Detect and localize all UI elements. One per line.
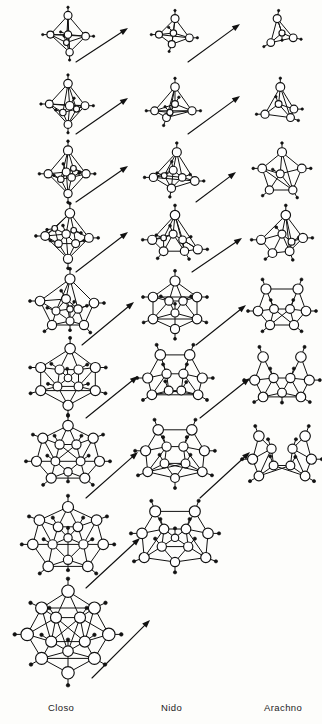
boron-vertex	[254, 431, 265, 442]
terminal-hydrogen	[29, 300, 32, 303]
boron-vertex	[178, 174, 186, 182]
boron-vertex	[60, 109, 66, 115]
boron-vertex	[50, 612, 61, 623]
boron-vertex	[148, 314, 158, 324]
terminal-hydrogen	[86, 363, 89, 366]
boron-vertex	[79, 636, 90, 647]
arrow-nido-to-arachno-row1	[188, 24, 240, 62]
boron-vertex	[90, 362, 100, 372]
terminal-hydrogen	[67, 131, 70, 134]
cluster-arachno-row6	[243, 345, 322, 404]
terminal-hydrogen	[103, 663, 107, 667]
boron-vertex	[306, 454, 316, 464]
boron-vertex	[82, 170, 90, 178]
boron-vertex	[48, 540, 57, 549]
boron-vertex	[189, 506, 200, 517]
boron-vertex	[31, 456, 41, 466]
terminal-hydrogen	[141, 238, 144, 241]
terminal-hydrogen	[101, 433, 104, 436]
terminal-hydrogen	[42, 538, 45, 541]
terminal-hydrogen	[266, 438, 269, 441]
terminal-hydrogen	[296, 196, 299, 199]
terminal-hydrogen	[129, 532, 132, 535]
boron-vertex	[63, 254, 72, 263]
terminal-hydrogen	[297, 119, 300, 122]
cluster-arachno-row4	[250, 204, 314, 261]
terminal-hydrogen	[162, 124, 165, 127]
boron-vertex	[157, 542, 166, 551]
boron-vertex	[160, 459, 169, 468]
boron-vertex	[184, 542, 193, 551]
boron-vertex	[300, 471, 310, 481]
boron-vertex	[172, 148, 181, 157]
terminal-hydrogen	[50, 362, 53, 365]
boron-vertex	[53, 382, 62, 391]
terminal-hydrogen	[175, 142, 178, 145]
cluster-closo-row9	[13, 577, 123, 687]
terminal-hydrogen	[69, 267, 72, 270]
boron-vertex	[170, 210, 180, 220]
boron-vertex	[257, 235, 266, 244]
boron-vertex	[67, 306, 73, 312]
boron-vertex	[162, 369, 171, 378]
terminal-hydrogen	[210, 474, 213, 477]
terminal-hydrogen	[315, 310, 318, 313]
boron-vertex	[58, 176, 64, 182]
terminal-hydrogen	[178, 96, 181, 99]
terminal-hydrogen	[104, 366, 107, 369]
boron-vertex	[52, 226, 58, 232]
terminal-hydrogen	[174, 9, 176, 11]
boron-vertex	[81, 102, 89, 110]
terminal-hydrogen	[255, 113, 258, 116]
arrow-nido-to-arachno-row6	[200, 378, 250, 418]
boron-vertex	[161, 173, 167, 179]
terminal-hydrogen	[68, 202, 71, 205]
boron-vertex	[253, 306, 263, 316]
boron-vertex	[278, 230, 286, 238]
boron-vertex	[170, 557, 179, 566]
terminal-hydrogen	[185, 380, 188, 383]
boron-vertex	[203, 528, 214, 539]
terminal-hydrogen	[174, 337, 177, 340]
boron-vertex	[268, 249, 277, 258]
terminal-hydrogen	[284, 204, 287, 207]
boron-vertex	[180, 247, 188, 255]
terminal-hydrogen	[105, 515, 108, 518]
terminal-hydrogen	[271, 168, 274, 171]
terminal-hydrogen	[119, 633, 123, 637]
column-label-nido: Nido	[161, 702, 182, 713]
terminal-hydrogen	[95, 572, 98, 575]
boron-vertex	[34, 515, 45, 526]
terminal-hydrogen	[247, 310, 250, 313]
boron-vertex	[148, 292, 158, 302]
arrow-head	[234, 238, 242, 245]
cluster-nido-row4	[141, 204, 208, 261]
arrow-nido-to-arachno-row3	[196, 172, 236, 202]
boron-vertex	[51, 457, 60, 466]
terminal-hydrogen	[142, 321, 145, 324]
boron-vertex	[171, 83, 180, 92]
arrow-head	[232, 96, 240, 103]
terminal-hydrogen	[141, 398, 144, 401]
terminal-hydrogen	[307, 424, 310, 427]
terminal-hydrogen	[104, 601, 108, 605]
boron-vertex	[289, 186, 297, 194]
terminal-hydrogen	[261, 330, 264, 333]
terminal-hydrogen	[173, 486, 176, 489]
terminal-hydrogen	[205, 321, 208, 324]
terminal-hydrogen	[258, 345, 261, 348]
terminal-hydrogen	[300, 38, 302, 40]
cluster-arachno-row3	[252, 142, 312, 199]
boron-vertex	[179, 442, 188, 451]
boron-vertex	[179, 369, 188, 378]
cluster-nido-row2	[145, 77, 202, 127]
cluster-closo-row1	[42, 6, 95, 61]
boron-vertex	[65, 101, 74, 110]
terminal-hydrogen	[87, 454, 90, 457]
terminal-hydrogen	[205, 398, 208, 401]
terminal-hydrogen	[294, 438, 297, 441]
terminal-hydrogen	[40, 633, 44, 637]
boron-vertex	[36, 602, 48, 614]
boron-vertex	[153, 425, 164, 436]
terminal-hydrogen	[214, 560, 217, 563]
